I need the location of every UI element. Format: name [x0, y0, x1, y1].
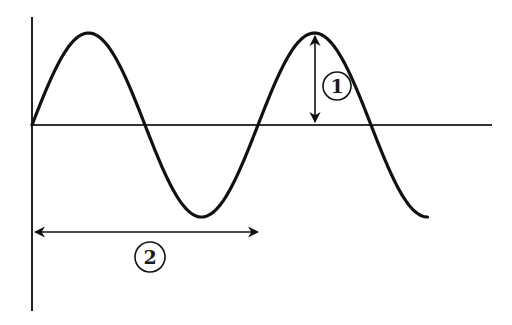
- amplitude-label: 1: [323, 72, 351, 100]
- wave-diagram: 1 2: [0, 0, 512, 325]
- amplitude-label-text: 1: [330, 75, 343, 97]
- wavelength-label: 2: [135, 242, 165, 272]
- wavelength-label-text: 2: [143, 246, 156, 268]
- wave-diagram-svg: 1 2: [0, 0, 512, 325]
